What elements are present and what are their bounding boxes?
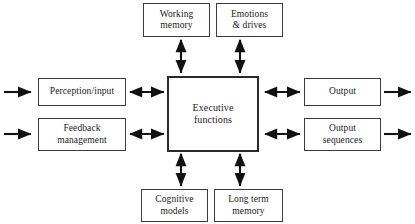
node-working-memory[interactable]: Working memory: [143, 3, 210, 37]
node-output-label: Output: [329, 86, 356, 98]
node-long-term-memory[interactable]: Long term memory: [214, 189, 283, 222]
node-working-memory-label: Working memory: [160, 9, 194, 32]
node-feedback-management-label: Feedback management: [57, 123, 107, 146]
node-output-sequences-label: Output sequences: [323, 123, 362, 146]
node-emotions-drives-label: Emotions & drives: [231, 9, 268, 32]
node-long-term-memory-label: Long term memory: [228, 194, 269, 217]
node-cognitive-models-label: Cognitive models: [155, 194, 193, 217]
node-emotions-drives[interactable]: Emotions & drives: [216, 3, 283, 37]
node-feedback-management[interactable]: Feedback management: [38, 118, 126, 151]
node-output[interactable]: Output: [304, 78, 381, 106]
node-executive-functions-label: Executive functions: [193, 102, 234, 127]
node-cognitive-models[interactable]: Cognitive models: [141, 189, 208, 222]
node-perception-input[interactable]: Perception/input: [38, 78, 126, 106]
node-perception-input-label: Perception/input: [50, 86, 114, 98]
node-output-sequences[interactable]: Output sequences: [304, 118, 381, 151]
executive-functions-diagram: Working memory Emotions & drives Percept…: [0, 0, 415, 224]
node-executive-functions[interactable]: Executive functions: [167, 76, 259, 152]
